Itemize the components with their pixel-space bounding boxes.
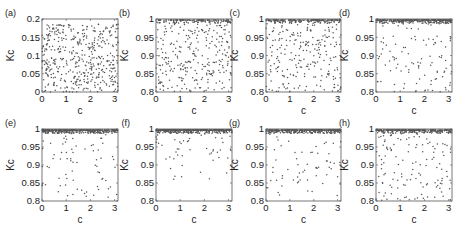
data-point (185, 74, 187, 76)
data-point (271, 21, 273, 23)
data-point (396, 67, 398, 69)
data-point (380, 81, 382, 83)
data-point (442, 130, 444, 132)
data-point (193, 59, 195, 61)
data-point (400, 139, 402, 141)
y-tick-label: 1 (35, 123, 40, 134)
data-point (177, 154, 179, 156)
data-point (171, 31, 173, 33)
x-axis-label: c (412, 105, 417, 116)
data-point (87, 132, 89, 134)
data-point (408, 144, 410, 146)
y-tick-label: 0.95 (356, 141, 375, 152)
data-point (421, 58, 423, 60)
data-point (428, 130, 430, 132)
data-point (160, 38, 162, 40)
data-point (287, 169, 289, 171)
data-point (91, 68, 93, 70)
data-point (276, 20, 278, 22)
data-point (49, 46, 51, 48)
data-point (450, 38, 452, 40)
data-point (114, 67, 116, 69)
data-point (229, 135, 231, 137)
data-point (79, 71, 81, 73)
data-point (226, 70, 228, 72)
data-point (377, 81, 379, 83)
data-point (390, 135, 392, 137)
data-point (329, 22, 331, 24)
data-point (326, 76, 328, 78)
y-axis-label: Kc (339, 50, 350, 62)
data-point (445, 22, 447, 24)
data-point (401, 176, 403, 178)
data-point (78, 44, 80, 46)
data-point (314, 48, 316, 50)
data-point (48, 67, 50, 69)
data-point (326, 54, 328, 56)
data-point (319, 129, 321, 131)
data-point (114, 77, 116, 79)
data-point (54, 49, 56, 51)
data-point (181, 132, 183, 134)
plot-frame-h (376, 129, 452, 201)
y-axis-label: Kc (119, 159, 130, 171)
data-point (103, 31, 105, 33)
data-point (446, 19, 448, 21)
data-point (416, 83, 418, 85)
data-point (105, 27, 107, 29)
data-point (47, 40, 49, 42)
data-point (418, 129, 420, 131)
data-point (387, 131, 389, 133)
data-point (96, 69, 98, 71)
data-point (72, 170, 74, 172)
data-point (70, 39, 72, 41)
data-point (450, 199, 452, 201)
data-point (197, 23, 199, 25)
data-point (97, 129, 99, 131)
data-point (330, 21, 332, 23)
data-point (328, 167, 330, 169)
data-point (222, 67, 224, 69)
data-point (316, 85, 318, 87)
data-point (189, 37, 191, 39)
x-tick-label: 2 (311, 93, 316, 104)
data-point (72, 161, 74, 163)
data-point (175, 54, 177, 56)
data-point (335, 78, 337, 80)
data-point (85, 65, 87, 67)
panel-label-g: (g) (229, 118, 240, 128)
data-point (379, 56, 381, 58)
data-point (404, 129, 406, 131)
data-point (282, 75, 284, 77)
data-point (181, 77, 183, 79)
data-point (76, 131, 78, 133)
data-point (45, 68, 47, 70)
data-point (162, 44, 164, 46)
data-point (77, 131, 79, 133)
data-point (54, 31, 56, 33)
data-point (229, 79, 231, 81)
data-point (81, 189, 83, 191)
y-tick-label: 0.15 (22, 32, 41, 43)
panel-label-d: (d) (339, 8, 350, 18)
data-point (383, 129, 385, 131)
data-point (90, 132, 92, 134)
data-point (384, 141, 386, 143)
data-point (227, 132, 229, 134)
data-point (75, 145, 77, 147)
data-point (328, 19, 330, 21)
data-point (317, 40, 319, 42)
data-point (222, 142, 224, 144)
data-point (449, 84, 451, 86)
data-point (184, 24, 186, 26)
data-point (307, 24, 309, 26)
data-point (187, 47, 189, 49)
data-point (281, 129, 283, 131)
data-point (268, 89, 270, 91)
data-point (395, 58, 397, 60)
data-point (106, 132, 108, 134)
data-point (328, 29, 330, 31)
data-point (212, 75, 214, 77)
data-point (440, 21, 442, 23)
data-point (62, 46, 64, 48)
